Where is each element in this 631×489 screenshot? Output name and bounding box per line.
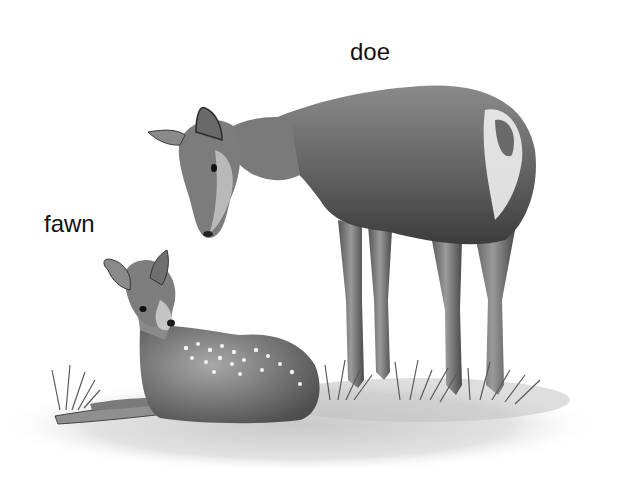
label-fawn: fawn [44,212,95,236]
illustration-canvas: doe fawn [0,0,631,489]
label-doe: doe [350,40,390,64]
deer-illustration [0,0,631,489]
